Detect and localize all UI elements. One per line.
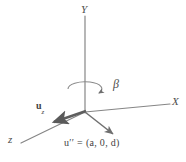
vector-uz-subscript: z (42, 108, 45, 116)
vector-u-double-prime (85, 112, 113, 134)
vector-label-uz: uz (36, 101, 44, 114)
axis-label-y: Y (81, 4, 87, 15)
rotation-angle-label-beta: β (113, 78, 119, 90)
figure-container: Y X z β uz u′′ = (a, 0, d) (0, 0, 186, 162)
equation-double-prime: ′′ (69, 137, 74, 148)
vector-equation-u-double-prime: u′′ = (a, 0, d) (64, 138, 120, 148)
axis-label-z: z (8, 134, 12, 145)
equation-equals-sign: = (77, 137, 83, 148)
vector-uz (54, 111, 86, 122)
x-axis-line (85, 104, 170, 112)
equation-components: (a, 0, d) (86, 137, 120, 148)
axis-label-x: X (172, 96, 179, 107)
vector-uz-base: u (36, 100, 42, 111)
